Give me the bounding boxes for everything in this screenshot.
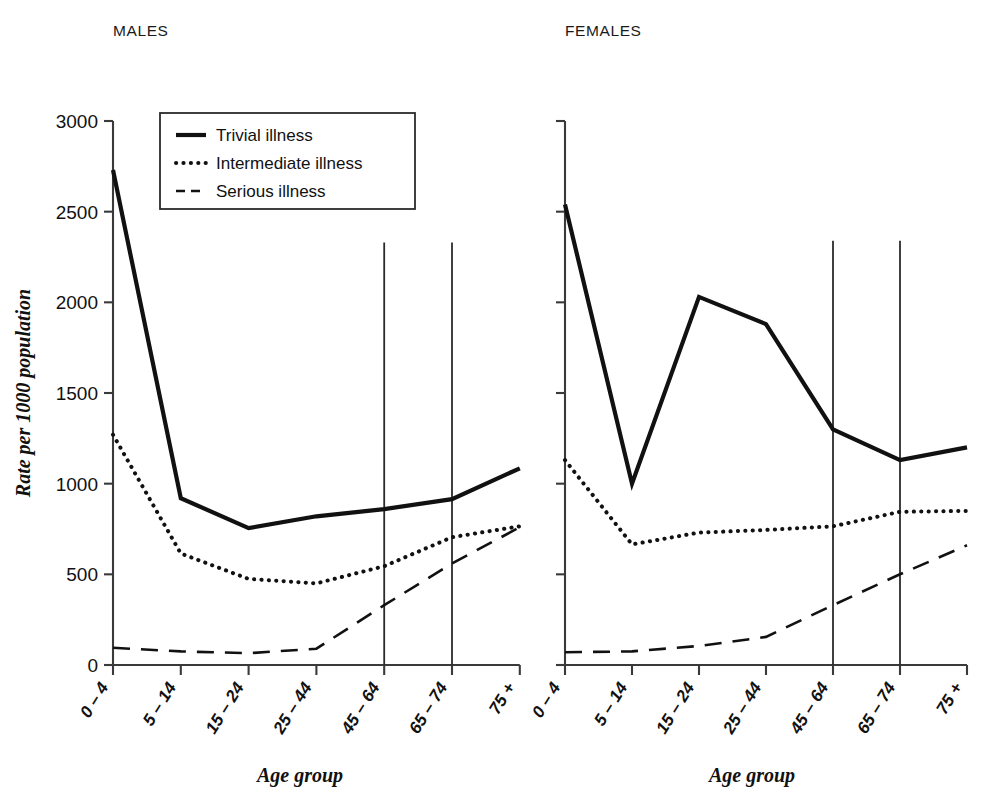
x-axis-title: Age group	[707, 764, 795, 787]
y-axis-tick-label: 0	[87, 655, 98, 676]
x-axis-tick-label: 5 – 14	[139, 679, 180, 730]
legend-label: Serious illness	[216, 182, 326, 201]
series-line-dotted	[565, 460, 967, 544]
panel-females: 0 – 45 – 1415 – 2425 – 4445 – 6465 – 747…	[528, 121, 967, 787]
x-axis-tick-label: 15 – 24	[652, 679, 698, 738]
legend-label: Trivial illness	[216, 126, 313, 145]
x-axis-tick-label: 65 – 74	[853, 679, 899, 738]
x-axis-tick-label: 0 – 4	[528, 679, 564, 722]
series-line-dashed	[113, 527, 520, 653]
legend-label: Intermediate illness	[216, 154, 362, 173]
y-axis-tick-label: 500	[66, 564, 98, 585]
y-axis-tick-label: 2000	[56, 292, 98, 313]
x-axis-tick-label: 65 – 74	[405, 679, 451, 738]
y-axis-tick-label: 3000	[56, 111, 98, 132]
y-axis-tick-label: 1500	[56, 383, 98, 404]
series-line-solid	[565, 204, 967, 483]
x-axis-tick-label: 75 +	[485, 679, 519, 718]
x-axis-tick-label: 25 – 44	[719, 679, 766, 738]
x-axis-title: Age group	[255, 764, 343, 787]
x-axis-tick-label: 25 – 44	[269, 679, 316, 738]
panel-title-males: MALES	[113, 22, 169, 39]
x-axis-tick-label: 5 – 14	[590, 679, 631, 730]
chart-legend: Trivial illnessIntermediate illnessSerio…	[160, 113, 415, 209]
series-line-dashed	[565, 545, 967, 652]
figure-container: MALES FEMALES Rate per 1000 population 0…	[0, 0, 991, 799]
y-axis-tick-label: 1000	[56, 474, 98, 495]
series-line-solid	[113, 170, 520, 528]
x-axis-tick-label: 0 – 4	[76, 679, 112, 722]
x-axis-tick-label: 15 – 24	[202, 679, 248, 738]
chart-svg: MALES FEMALES Rate per 1000 population 0…	[0, 0, 991, 799]
panel-males: 0500100015002000250030000 – 45 – 1415 – …	[56, 111, 520, 787]
x-axis-tick-label: 45 – 64	[786, 679, 833, 738]
panel-title-females: FEMALES	[565, 22, 642, 39]
y-axis-title: Rate per 1000 population	[12, 289, 35, 498]
axis-lines	[565, 121, 967, 665]
x-axis-tick-label: 75 +	[932, 679, 966, 718]
y-axis-tick-label: 2500	[56, 202, 98, 223]
x-axis-tick-label: 45 – 64	[337, 679, 384, 738]
